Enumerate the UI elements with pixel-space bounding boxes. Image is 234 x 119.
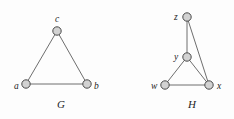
graph-vertex-g-a xyxy=(22,80,30,88)
graph-name-label-g: G xyxy=(57,99,65,110)
vertex-label-g-c: c xyxy=(55,15,59,25)
graph-vertex-g-c xyxy=(53,27,61,35)
vertex-label-h-w: w xyxy=(151,82,157,92)
vertex-label-h-y: y xyxy=(174,53,178,63)
graph-vertex-h-y xyxy=(183,53,191,61)
graph-vertex-h-x xyxy=(205,81,213,89)
vertex-label-g-a: a xyxy=(14,82,19,92)
graph-name-label-h: H xyxy=(188,99,196,110)
graph-edge-h-zx xyxy=(188,21,208,82)
graph-edge-h-yw xyxy=(167,60,184,82)
graph-figure: cabGzywxH xyxy=(0,0,234,119)
vertices-layer xyxy=(22,13,213,89)
graph-vertex-h-w xyxy=(161,81,169,89)
vertex-label-h-x: x xyxy=(217,82,221,92)
graph-edge-g-cb xyxy=(59,34,85,80)
graph-drawing-canvas xyxy=(0,0,234,119)
vertex-label-h-z: z xyxy=(174,13,178,23)
vertex-label-g-b: b xyxy=(94,82,99,92)
graph-vertex-h-z xyxy=(183,13,191,21)
graph-vertex-g-b xyxy=(83,80,91,88)
graph-edge-g-ac xyxy=(28,34,55,80)
